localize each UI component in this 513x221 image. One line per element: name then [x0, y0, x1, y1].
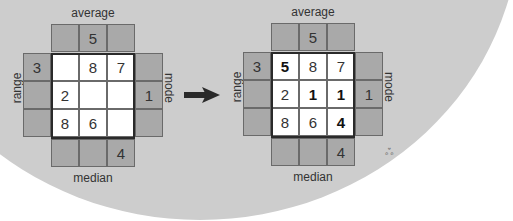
grid-cell [79, 81, 107, 109]
right-clue: 1 [135, 81, 163, 109]
label-average: average [271, 5, 355, 19]
top-clue: 5 [79, 24, 107, 52]
left-clue [23, 81, 51, 109]
right-clue [355, 108, 383, 136]
top-clue [51, 24, 79, 52]
grid-cell: 2 [51, 81, 79, 109]
grid-cell: 6 [79, 109, 107, 137]
label-range: range [230, 67, 244, 107]
grid-cell-solved: 1 [327, 80, 355, 108]
grid-cell: 6 [299, 108, 327, 136]
bee-doodle-icon: ஃ [385, 145, 394, 159]
top-clue [271, 23, 299, 51]
right-clue [355, 52, 383, 80]
right-arrow-icon [184, 87, 220, 103]
top-clue [327, 23, 355, 51]
label-mode: mode [382, 67, 396, 107]
left-clue [23, 109, 51, 137]
bottom-clue: 4 [107, 139, 135, 167]
grid-cell: 7 [107, 53, 135, 81]
puzzle-after: average median range mode 5 3 1 4 5 8 7 … [243, 23, 383, 193]
bottom-clue [271, 138, 299, 166]
grid-cell: 2 [271, 80, 299, 108]
grid-cell: 8 [299, 52, 327, 80]
grid-cell-solved: 4 [327, 108, 355, 136]
grid-cell: 7 [327, 52, 355, 80]
grid-cell: 8 [51, 109, 79, 137]
right-clue [135, 53, 163, 81]
label-median: median [51, 171, 135, 185]
left-clue: 3 [243, 52, 271, 80]
left-clue: 3 [23, 53, 51, 81]
bottom-clue [79, 139, 107, 167]
grid-cell: 8 [79, 53, 107, 81]
left-clue [243, 80, 271, 108]
bottom-clue: 4 [327, 138, 355, 166]
top-clue [107, 24, 135, 52]
grid-cell [107, 81, 135, 109]
top-clue: 5 [299, 23, 327, 51]
puzzle-before: average median range mode 5 3 1 4 8 7 2 … [23, 24, 163, 194]
label-mode: mode [162, 68, 176, 108]
grid-cell-solved: 5 [271, 52, 299, 80]
right-clue [135, 109, 163, 137]
bottom-clue [51, 139, 79, 167]
grid-cell [51, 53, 79, 81]
grid-cell-solved: 1 [299, 80, 327, 108]
grid-cell [107, 109, 135, 137]
label-range: range [10, 68, 24, 108]
bottom-clue [299, 138, 327, 166]
left-clue [243, 108, 271, 136]
right-clue: 1 [355, 80, 383, 108]
grid-cell: 8 [271, 108, 299, 136]
label-median: median [271, 170, 355, 184]
label-average: average [51, 6, 135, 20]
